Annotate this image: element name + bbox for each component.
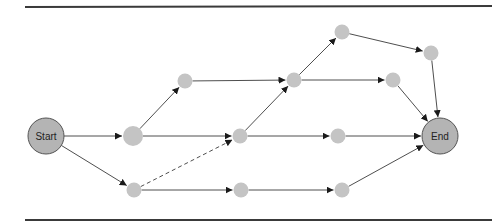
edge-n11-to-end [349,145,424,186]
node-n6 [424,46,439,61]
event-circle [331,129,346,144]
edge-n7-to-end [398,86,428,122]
event-circle [123,126,143,146]
node-n1 [123,126,143,146]
event-circle [335,25,350,40]
node-n8 [331,129,346,144]
edge-n1-to-n2 [140,87,179,129]
edges [61,34,438,190]
node-n7 [386,73,401,88]
nodes: StartEnd [28,25,458,198]
edge-n4-to-n5 [299,38,336,75]
event-circle [335,183,350,198]
edge-n6-to-end [432,60,438,117]
top-rule [25,6,492,7]
node-n5 [335,25,350,40]
event-circle [424,46,439,61]
event-circle [287,73,302,88]
node-start: Start [28,118,64,154]
node-n11 [335,183,350,198]
event-circle [178,74,193,89]
node-n10 [234,183,249,198]
network-diagram: StartEnd [0,0,492,222]
event-circle [233,129,248,144]
edge-n3-to-n4 [245,86,288,130]
node-n4 [287,73,302,88]
horizontal-rules [25,6,492,220]
edge-n5-to-n6 [349,34,422,51]
edge-n2-to-n4 [192,80,285,81]
edge-n9-to-n3-dashed [141,140,233,187]
event-circle [386,73,401,88]
event-circle [127,183,142,198]
node-label-start: Start [35,131,56,142]
node-label-end: End [431,131,449,142]
event-circle [234,183,249,198]
node-end: End [422,118,458,154]
node-n3 [233,129,248,144]
edge-start-to-n9 [61,145,126,185]
node-n2 [178,74,193,89]
node-n9 [127,183,142,198]
